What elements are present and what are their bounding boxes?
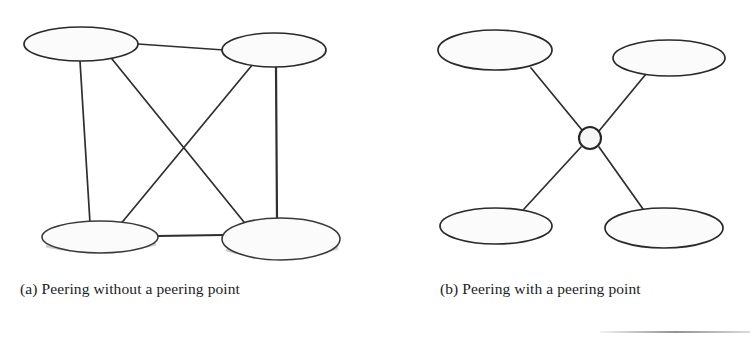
edge-top-left-to-peering-point — [531, 68, 582, 130]
figure-root: (a) Peering without a peering point (b) … — [0, 0, 754, 342]
panel-a-edges — [80, 44, 277, 236]
node-ellipse-top-left — [438, 30, 552, 70]
node-ellipse-bottom-right — [605, 208, 723, 248]
edge-top-left-to-bottom-left — [80, 61, 90, 223]
edge-bottom-left-to-bottom-right — [157, 235, 223, 236]
node-ellipse-bottom-right — [222, 218, 340, 260]
panel-a-caption: (a) Peering without a peering point — [20, 280, 240, 298]
panel-a-nodes — [24, 27, 340, 260]
panel-a: (a) Peering without a peering point — [0, 0, 400, 342]
node-ellipse-top-left — [24, 27, 138, 61]
edge-top-right-to-bottom-left-diagonal — [119, 64, 253, 226]
scan-edge-artifact — [600, 331, 750, 333]
panel-b-nodes — [438, 30, 725, 248]
node-ellipse-bottom-left — [440, 208, 552, 244]
panel-b-caption: (b) Peering with a peering point — [440, 280, 641, 298]
node-ellipse-top-right — [613, 40, 725, 76]
node-ellipse-top-right — [222, 33, 326, 67]
edge-top-left-to-top-right — [138, 44, 224, 50]
panel-b-graph — [400, 0, 754, 275]
edge-top-right-to-peering-point — [599, 74, 646, 131]
panel-a-graph — [0, 0, 400, 275]
edge-top-right-to-bottom-right — [276, 67, 277, 221]
peering-point-node — [579, 127, 601, 149]
edge-bottom-right-to-peering-point — [599, 147, 643, 209]
node-ellipse-bottom-left — [42, 221, 158, 253]
edge-top-left-to-bottom-right-diagonal — [112, 59, 248, 227]
panel-b: (b) Peering with a peering point — [400, 0, 754, 342]
edge-bottom-left-to-peering-point — [524, 147, 581, 209]
